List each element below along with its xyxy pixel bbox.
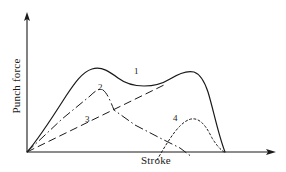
y-axis-title: Punch force — [10, 54, 22, 118]
curve-label-3: 3 — [85, 115, 90, 124]
punch-force-stroke-figure: Punch force Stroke 1 2 3 4 — [0, 0, 286, 172]
curve-label-1: 1 — [134, 67, 139, 76]
curve-3-dashed-line — [27, 85, 164, 152]
curve-label-2: 2 — [98, 83, 103, 92]
curve-2-dash-dot — [27, 89, 192, 157]
curve-label-4: 4 — [173, 114, 178, 123]
curve-1-total-force — [27, 68, 225, 152]
plot-area — [0, 0, 286, 172]
x-axis-title: Stroke — [120, 154, 192, 166]
